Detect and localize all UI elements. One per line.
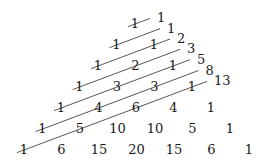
fibonacci-sum-label: 5	[197, 52, 205, 67]
triangle-cell: 1	[207, 100, 215, 115]
fibonacci-sum-label: 1	[157, 10, 165, 25]
fibonacci-sum-label: 8	[206, 63, 214, 78]
triangle-cell: 1	[245, 142, 253, 157]
triangle-cell: 1	[20, 142, 28, 157]
triangle-cell: 4	[169, 100, 177, 115]
triangle-cell: 6	[132, 100, 140, 115]
fibonacci-sum-label: 2	[177, 31, 185, 46]
triangle-cell: 1	[226, 121, 234, 136]
fibonacci-sum-label: 1	[167, 21, 175, 36]
triangle-cell: 10	[147, 121, 164, 136]
pascal-fibonacci-diagram: 111121133114641151010511615201561 112358…	[0, 0, 264, 168]
fibonacci-sum-label: 3	[187, 41, 195, 56]
fibonacci-sums: 11235813	[157, 10, 231, 88]
triangle-cell: 6	[207, 142, 215, 157]
triangle-cell: 1	[188, 79, 196, 94]
triangle-cell: 1	[131, 16, 139, 31]
triangle-cell: 3	[113, 79, 121, 94]
fibonacci-sum-label: 13	[214, 73, 231, 88]
triangle-cell: 1	[112, 37, 120, 52]
triangle-cell: 1	[94, 58, 102, 73]
triangle-cell: 1	[75, 79, 83, 94]
triangle-cell: 5	[76, 121, 84, 136]
triangle-cell: 1	[169, 58, 177, 73]
diagram-canvas: 111121133114641151010511615201561 112358…	[0, 0, 264, 168]
triangle-cell: 15	[166, 142, 183, 157]
triangle-cell: 15	[91, 142, 108, 157]
triangle-cell: 1	[150, 37, 158, 52]
triangle-cell: 20	[128, 142, 145, 157]
triangle-cell: 10	[109, 121, 126, 136]
triangle-cell: 6	[57, 142, 65, 157]
triangle-cell: 5	[188, 121, 196, 136]
triangle-cell: 2	[131, 58, 139, 73]
triangle-cell: 4	[94, 100, 102, 115]
triangle-cell: 3	[150, 79, 158, 94]
triangle-cell: 1	[57, 100, 65, 115]
triangle-cell: 1	[38, 121, 46, 136]
